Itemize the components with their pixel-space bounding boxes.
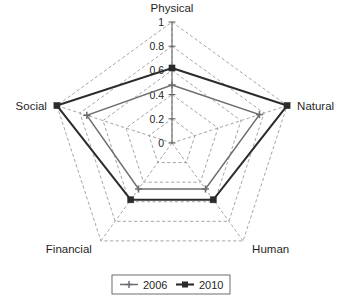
- legend-label-2006: 2006: [143, 279, 167, 291]
- data-point-2010-natural: [284, 103, 290, 109]
- marker-square: [210, 197, 216, 203]
- axis-spoke-natural: [172, 106, 287, 143]
- legend-marker-square: [182, 282, 188, 288]
- radar-chart: 10.80.60.40.20PhysicalNaturalHumanFinanc…: [0, 0, 342, 299]
- data-point-2006-physical: [168, 81, 175, 88]
- axis-spoke-human: [172, 143, 243, 241]
- legend-label-2010: 2010: [199, 279, 223, 291]
- radial-tick-label-5: 0: [158, 137, 164, 149]
- axis-label-physical: Physical: [151, 2, 194, 14]
- radial-tick-label-1: 0.8: [149, 40, 164, 52]
- axis-label-financial: Financial: [46, 243, 92, 255]
- data-point-2010-human: [210, 197, 216, 203]
- data-point-2010-social: [54, 103, 60, 109]
- axis-label-social: Social: [16, 100, 47, 112]
- axis-label-natural: Natural: [297, 100, 334, 112]
- axis-label-human: Human: [252, 243, 289, 255]
- marker-square: [128, 197, 134, 203]
- marker-square: [54, 103, 60, 109]
- data-point-2010-physical: [169, 65, 175, 71]
- marker-square: [169, 65, 175, 71]
- radar-chart-svg: 10.80.60.40.20PhysicalNaturalHumanFinanc…: [0, 0, 342, 299]
- marker-square: [284, 103, 290, 109]
- radial-tick-label-4: 0.2: [149, 113, 164, 125]
- data-point-2010-financial: [128, 197, 134, 203]
- axis-spoke-financial: [101, 143, 172, 241]
- radial-tick-label-0: 1: [158, 16, 164, 28]
